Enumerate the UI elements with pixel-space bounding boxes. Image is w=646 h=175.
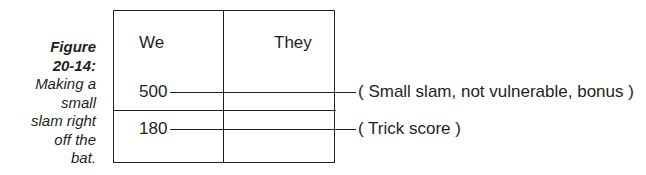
figure-caption: Figure 20-14: Making a small slam right … <box>20 38 96 168</box>
score-bonus: 500 <box>139 82 167 102</box>
column-header-they: They <box>274 33 312 53</box>
caption-line: bat. <box>20 149 96 168</box>
score-trick: 180 <box>139 119 167 139</box>
note-trick: ( Trick score ) <box>358 119 461 139</box>
caption-line: slam right <box>20 112 96 131</box>
pointer-line <box>170 92 356 93</box>
note-bonus: ( Small slam, not vulnerable, bonus ) <box>358 82 634 102</box>
caption-line: small <box>20 94 96 113</box>
column-divider <box>223 10 224 163</box>
pointer-line <box>170 129 356 130</box>
figure-number: Figure <box>20 38 96 57</box>
caption-line: Making a <box>20 75 96 94</box>
figure-number-value: 20-14: <box>20 57 96 76</box>
the-line-divider <box>113 110 336 111</box>
caption-line: off the <box>20 131 96 150</box>
column-header-we: We <box>139 33 164 53</box>
